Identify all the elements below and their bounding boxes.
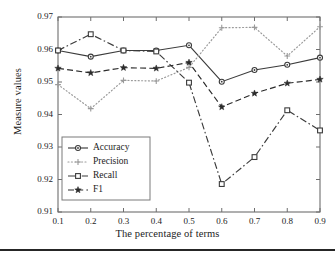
data-point-star: [120, 64, 126, 70]
data-point-square: [76, 174, 81, 179]
y-tick-label: 0.95: [23, 76, 53, 86]
x-tick-label: 0.1: [43, 216, 73, 226]
data-point-plus: [121, 77, 127, 83]
data-point-square: [187, 80, 192, 85]
data-point-circle-center: [319, 57, 321, 59]
y-tick-label: 0.92: [23, 174, 53, 184]
y-tick-label: 0.96: [23, 44, 53, 54]
x-axis-label: The percentage of terms: [0, 228, 335, 239]
x-tick-label: 0.2: [76, 216, 106, 226]
x-tick-label: 0.7: [240, 216, 270, 226]
x-tick-label: 0.8: [272, 216, 302, 226]
data-point-square: [219, 182, 224, 187]
chart-figure: Measure values The percentage of terms 0…: [0, 0, 335, 258]
data-point-square: [56, 48, 61, 53]
legend-label-precision: Precision: [93, 156, 128, 166]
data-point-circle-center: [188, 44, 190, 46]
data-point-square: [154, 49, 159, 54]
data-point-star: [153, 65, 159, 71]
y-tick-label: 0.93: [23, 141, 53, 151]
data-point-circle-center: [254, 69, 256, 71]
y-tick-label: 0.97: [23, 11, 53, 21]
data-point-circle-center: [286, 64, 288, 66]
y-axis-label: Measure values: [12, 47, 23, 157]
y-tick-label: 0.91: [23, 206, 53, 216]
data-point-square: [88, 32, 93, 37]
data-point-plus: [153, 78, 159, 84]
x-tick-label: 0.3: [109, 216, 139, 226]
legend-label-f1: F1: [93, 184, 103, 194]
data-point-circle-center: [77, 147, 79, 149]
data-point-square: [121, 48, 126, 53]
legend-label-accuracy: Accuracy: [93, 142, 129, 152]
x-tick-label: 0.9: [305, 216, 335, 226]
page-divider-rule: [0, 249, 335, 251]
x-tick-label: 0.5: [174, 216, 204, 226]
data-point-star: [88, 70, 94, 76]
data-point-circle-center: [90, 56, 92, 58]
data-point-star: [251, 90, 257, 96]
y-tick-label: 0.94: [23, 109, 53, 119]
data-point-circle-center: [221, 81, 223, 83]
x-tick-label: 0.4: [141, 216, 171, 226]
x-tick-label: 0.6: [207, 216, 237, 226]
data-point-plus: [55, 82, 61, 88]
data-point-square: [252, 155, 257, 160]
data-point-square: [285, 108, 290, 113]
data-point-star: [284, 80, 290, 86]
legend-label-recall: Recall: [93, 170, 117, 180]
data-point-square: [318, 128, 323, 133]
